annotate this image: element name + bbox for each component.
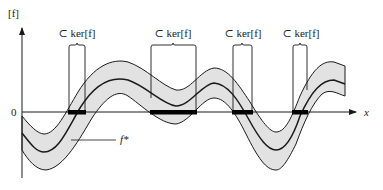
y-axis-label: [f] [8,7,19,19]
kernel-bar-1 [68,110,86,115]
kernel-diagram: ⊂ ker[f] ⊂ ker[f] ⊂ ker[f] ⊂ ker[f] [f] … [0,0,383,190]
uncertainty-band [22,61,345,170]
origin-label: 0 [11,106,17,118]
x-axis-label: x [363,106,369,118]
kernel-bar-2 [150,110,197,115]
kernel-bar-4 [292,110,308,115]
kernel-label-2: ⊂ ker[f] [154,27,191,39]
kernel-bar-3 [232,110,253,115]
kernel-label-4: ⊂ ker[f] [282,27,319,39]
kernel-label-3: ⊂ ker[f] [224,27,261,39]
kernel-label-1: ⊂ ker[f] [58,27,95,39]
f-star-label: f* [120,133,129,145]
